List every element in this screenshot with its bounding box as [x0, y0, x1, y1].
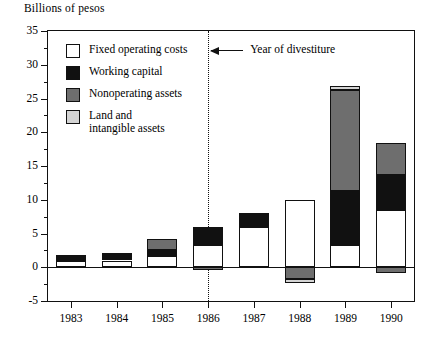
y-axis-tick-label: 10: [27, 194, 39, 206]
bar-segment: [376, 175, 406, 210]
y-axis-minor-tick: [44, 284, 48, 285]
x-axis-tick-label: 1989: [334, 313, 357, 325]
bar-segment: [147, 239, 177, 250]
y-axis-tick-label: 35: [27, 25, 39, 37]
chart-figure: Billions of pesos Year of divestiture Fi…: [0, 0, 435, 348]
x-axis-tick: [345, 301, 346, 308]
x-axis-tick: [254, 301, 255, 308]
bar-segment: [330, 90, 360, 191]
y-axis-tick: [41, 99, 48, 100]
bar-segment: [239, 227, 269, 268]
y-axis-tick-label: 25: [27, 93, 39, 105]
y-axis-tick-label: 20: [27, 127, 39, 139]
bar-segment: [330, 245, 360, 267]
y-axis-tick: [41, 31, 48, 32]
y-axis-minor-tick: [44, 48, 48, 49]
bar-segment: [102, 261, 132, 268]
y-axis-tick: [41, 301, 48, 302]
y-axis-tick: [41, 267, 48, 268]
y-axis-tick: [41, 65, 48, 66]
y-axis-minor-tick: [44, 183, 48, 184]
y-axis-tick-label: -5: [28, 295, 38, 307]
x-axis-tick-label: 1983: [59, 313, 82, 325]
bar-segment: [102, 253, 132, 260]
y-axis-tick: [41, 200, 48, 201]
x-axis-tick: [71, 301, 72, 308]
x-axis-tick: [391, 301, 392, 308]
bar-1990: [376, 31, 406, 301]
bar-segment-negative: [376, 267, 406, 273]
plot-area: Year of divestiture Fixed operating cost…: [47, 30, 415, 302]
y-axis-minor-tick: [44, 250, 48, 251]
bar-segment-negative: [193, 267, 223, 269]
bar-segment: [330, 86, 360, 89]
bar-1989: [330, 31, 360, 301]
y-axis-tick: [41, 234, 48, 235]
y-axis-minor-tick: [44, 82, 48, 83]
bar-segment: [193, 245, 223, 267]
x-axis-tick: [208, 301, 209, 308]
bar-segment: [56, 261, 86, 267]
x-axis-tick: [117, 301, 118, 308]
bar-1987: [239, 31, 269, 301]
bar-segment: [376, 143, 406, 175]
bar-1985: [147, 31, 177, 301]
y-axis-minor-tick: [44, 149, 48, 150]
y-axis-tick-label: 5: [32, 228, 38, 240]
bar-segment-negative: [285, 279, 315, 283]
bar-segment-negative: [285, 267, 315, 278]
y-axis-minor-tick: [44, 115, 48, 116]
x-axis-tick-label: 1988: [288, 313, 311, 325]
y-axis-tick-label: 30: [27, 59, 39, 71]
bar-1984: [102, 31, 132, 301]
bar-segment: [285, 200, 315, 267]
bar-segment: [193, 227, 223, 245]
x-axis-tick: [162, 301, 163, 308]
x-axis-tick-label: 1986: [197, 313, 220, 325]
x-axis-tick: [300, 301, 301, 308]
bar-segment: [147, 256, 177, 267]
y-axis-tick: [41, 132, 48, 133]
y-axis-tick: [41, 166, 48, 167]
bar-segment: [56, 255, 86, 261]
bar-1983: [56, 31, 86, 301]
x-axis-tick-label: 1987: [242, 313, 265, 325]
bar-segment: [239, 213, 269, 227]
bar-segment: [330, 191, 360, 245]
bar-1986: [193, 31, 223, 301]
x-axis-tick-label: 1990: [380, 313, 403, 325]
bar-segment: [147, 250, 177, 255]
y-axis-title: Billions of pesos: [24, 2, 105, 14]
y-axis-tick-label: 15: [27, 160, 39, 172]
y-axis-minor-tick: [44, 217, 48, 218]
x-axis-tick-label: 1985: [151, 313, 174, 325]
y-axis-tick-label: 0: [32, 262, 38, 274]
bar-1988: [285, 31, 315, 301]
bar-segment: [376, 210, 406, 267]
x-axis-tick-label: 1984: [105, 313, 128, 325]
